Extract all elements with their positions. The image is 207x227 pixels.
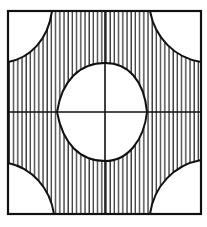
hatched-square-diagram [0,0,207,227]
